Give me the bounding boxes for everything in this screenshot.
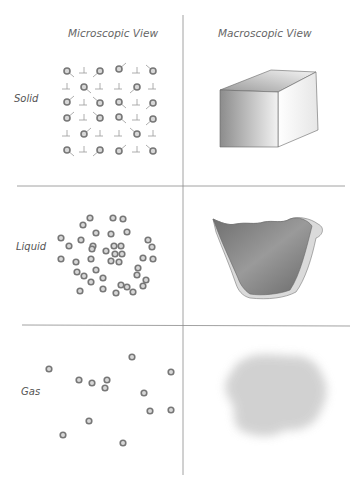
particle xyxy=(100,275,106,281)
particle xyxy=(86,418,92,424)
particle xyxy=(81,84,87,90)
particle xyxy=(145,237,151,243)
particle xyxy=(97,68,103,74)
particle xyxy=(97,147,103,153)
particle xyxy=(116,114,122,120)
gas-cloud-illustration xyxy=(226,355,327,436)
particle xyxy=(116,99,122,105)
particle xyxy=(135,265,141,271)
particle xyxy=(100,286,106,292)
particle xyxy=(58,235,64,241)
particle xyxy=(103,248,109,254)
particle xyxy=(150,148,156,154)
particle xyxy=(77,288,83,294)
particle xyxy=(129,354,135,360)
particle xyxy=(124,229,130,235)
particle xyxy=(118,243,124,249)
particle xyxy=(88,256,94,262)
particle xyxy=(89,380,95,386)
particle xyxy=(80,222,86,228)
particle xyxy=(150,116,156,122)
particle xyxy=(134,272,140,278)
particle xyxy=(88,279,94,285)
particle xyxy=(102,385,108,391)
solid-lattice xyxy=(62,63,156,156)
particle xyxy=(150,100,156,106)
liquid-particles xyxy=(58,215,156,296)
row-label-liquid: Liquid xyxy=(16,241,46,252)
particle xyxy=(108,231,114,237)
particle xyxy=(120,216,126,222)
particle xyxy=(60,432,66,438)
particle xyxy=(116,148,122,154)
particle xyxy=(120,440,126,446)
row-label-gas: Gas xyxy=(21,386,40,397)
particle xyxy=(150,68,156,74)
particle xyxy=(143,277,149,283)
particle xyxy=(81,131,87,137)
particle xyxy=(119,251,125,257)
particle xyxy=(64,68,70,74)
particle xyxy=(73,259,79,265)
particle xyxy=(66,243,72,249)
particle xyxy=(81,273,87,279)
particle xyxy=(113,290,119,296)
particle xyxy=(97,100,103,106)
particle xyxy=(134,131,140,137)
particle xyxy=(110,215,116,221)
header-macroscopic-view: Macroscopic View xyxy=(218,27,312,39)
particle xyxy=(140,283,146,289)
particle xyxy=(124,284,130,290)
header-microscopic-view: Microscopic View xyxy=(68,27,158,39)
particle xyxy=(168,369,174,375)
particle xyxy=(147,408,153,414)
cube-illustration xyxy=(220,70,318,147)
particle xyxy=(130,289,136,295)
particle xyxy=(140,255,146,261)
gas-particles xyxy=(46,354,174,446)
particle xyxy=(108,258,114,264)
particle xyxy=(46,366,52,372)
particle xyxy=(78,237,84,243)
particle xyxy=(150,256,156,262)
particle xyxy=(64,115,70,121)
particle xyxy=(76,377,82,383)
particle xyxy=(149,244,155,250)
states-of-matter-diagram xyxy=(0,0,358,482)
row-label-solid: Solid xyxy=(14,93,38,104)
particle xyxy=(104,377,110,383)
particle xyxy=(116,66,122,72)
particle xyxy=(74,269,80,275)
liquid-container-illustration xyxy=(213,218,322,299)
particle xyxy=(116,259,122,265)
particle xyxy=(93,267,99,273)
particle xyxy=(93,230,99,236)
particle xyxy=(112,251,118,257)
particle xyxy=(118,282,124,288)
particle xyxy=(64,99,70,105)
particle xyxy=(89,246,95,252)
particle xyxy=(97,115,103,121)
particle xyxy=(111,243,117,249)
particle xyxy=(64,147,70,153)
particle xyxy=(168,407,174,413)
particle xyxy=(141,390,147,396)
particle xyxy=(134,84,140,90)
particle xyxy=(58,256,64,262)
particle xyxy=(87,215,93,221)
divider-liquid-gas xyxy=(22,325,350,326)
